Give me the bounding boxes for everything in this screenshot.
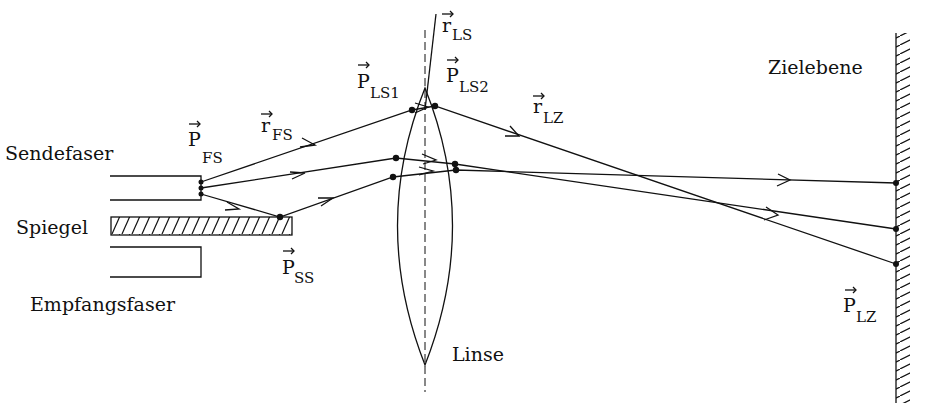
vector-p-ss: P SS — [282, 248, 314, 287]
mirror — [111, 217, 292, 235]
svg-text:P: P — [843, 294, 856, 316]
label-spiegel: Spiegel — [16, 216, 88, 238]
label-sendefaser: Sendefaser — [5, 142, 114, 164]
lens-normal-line — [425, 14, 436, 110]
vector-r-ls: r LS — [442, 11, 472, 44]
svg-text:P: P — [446, 64, 459, 86]
svg-text:r: r — [533, 95, 543, 117]
vector-r-fs: r FS — [261, 111, 293, 144]
vector-r-lz: r LZ — [533, 93, 563, 127]
svg-text:LZ: LZ — [543, 109, 563, 127]
label-empfangsfaser: Empfangsfaser — [30, 293, 176, 315]
send-fiber — [110, 176, 201, 200]
svg-text:LZ: LZ — [856, 308, 876, 326]
svg-text:P: P — [188, 128, 201, 150]
svg-text:FS: FS — [202, 149, 223, 167]
vector-p-ls2: P LS2 — [446, 57, 489, 96]
svg-text:SS: SS — [294, 269, 314, 287]
label-linse: Linse — [452, 343, 504, 365]
receive-fiber — [110, 247, 201, 277]
svg-text:FS: FS — [272, 126, 293, 144]
optics-diagram: Sendefaser Spiegel Empfangsfaser Linse Z… — [0, 0, 930, 415]
target-plane — [896, 33, 910, 403]
light-rays — [201, 103, 896, 264]
svg-text:LS1: LS1 — [370, 84, 400, 102]
vector-p-lz: P LZ — [843, 287, 876, 326]
svg-text:LS: LS — [452, 26, 472, 44]
vector-p-fs: P FS — [188, 121, 223, 167]
vector-p-ls1: P LS1 — [357, 62, 400, 102]
intersection-points — [199, 103, 900, 267]
svg-text:r: r — [261, 114, 271, 136]
svg-text:LS2: LS2 — [459, 78, 489, 96]
svg-text:P: P — [357, 70, 370, 92]
svg-text:r: r — [442, 14, 452, 36]
label-zielebene: Zielebene — [768, 56, 863, 78]
